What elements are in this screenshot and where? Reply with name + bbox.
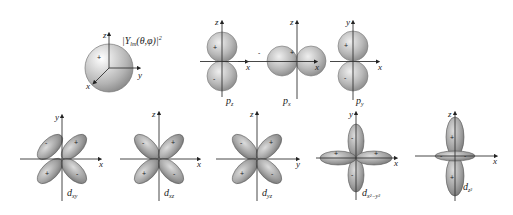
axis-label-y: y xyxy=(137,70,142,80)
orbital-dxz: z x - + + - dxz xyxy=(120,109,201,201)
sign: + xyxy=(142,170,146,177)
orbital-label: py xyxy=(355,95,364,107)
sign-plus: + xyxy=(97,54,101,61)
spherical-harmonic-label: |Ylm(θ,φ)|2 xyxy=(122,35,162,47)
axis-label-z: z xyxy=(102,30,107,40)
axis-label-horizontal: x xyxy=(492,156,497,166)
sign: + xyxy=(269,139,273,146)
sign: + xyxy=(240,170,244,177)
axis-label-vertical: y xyxy=(348,109,353,119)
axis-label-vertical: z xyxy=(289,17,294,27)
orbital-dx2-y2: y x - + + - dx²−y² xyxy=(316,109,398,200)
axis-label-horizontal: y xyxy=(295,159,300,169)
axis-label-x: x xyxy=(85,81,90,91)
sign-left: - xyxy=(258,49,261,56)
sign-right: + xyxy=(290,49,294,56)
lobe-right xyxy=(296,46,326,76)
axis-label-horizontal: x xyxy=(377,62,382,72)
orbital-label: dz² xyxy=(463,181,472,193)
orbital-label: dx²−y² xyxy=(362,187,380,199)
orbital-dz2: z x + - - + dz² xyxy=(415,109,497,201)
axis-label-vertical: z xyxy=(151,109,156,119)
sign: + xyxy=(450,174,454,181)
sign: + xyxy=(74,139,78,146)
sphere-harmonic: z y x + |Ylm(θ,φ)|2 xyxy=(85,30,162,92)
axis-label-vertical: z xyxy=(447,109,452,119)
orbital-label: px xyxy=(282,95,291,107)
axis-label-vertical: z xyxy=(249,109,254,119)
orbital-diagram: z y x + |Ylm(θ,φ)|2 z x + - pz z x - + p… xyxy=(0,0,513,215)
sign: + xyxy=(374,150,378,157)
axis-label-vertical: y xyxy=(54,112,59,122)
orbital-label: dyz xyxy=(262,187,273,199)
sign: + xyxy=(450,134,454,141)
sign-upper: + xyxy=(213,44,217,51)
axis-label-horizontal: x xyxy=(393,158,398,168)
axis-label-vertical: y xyxy=(345,17,350,27)
sign-upper: + xyxy=(344,42,348,49)
orbital-pz: z x + - pz xyxy=(200,17,250,107)
axis-label-vertical: z xyxy=(214,17,219,27)
axis-label-horizontal: x xyxy=(98,159,103,169)
orbital-dyz: z y - + + - dyz xyxy=(216,109,300,201)
orbital-py: y x + - py xyxy=(330,17,382,107)
sign: + xyxy=(171,139,175,146)
sign: + xyxy=(45,170,49,177)
orbital-label: dxy xyxy=(67,187,78,199)
axis-label-horizontal: x xyxy=(245,62,250,72)
orbital-dxy: y x - + + - dxy xyxy=(20,112,103,201)
axis-label-horizontal: x xyxy=(196,159,201,169)
orbital-px: z x - + px xyxy=(238,17,326,107)
orbital-label: pz xyxy=(225,95,234,107)
axis-label-horizontal: x xyxy=(314,62,319,72)
sign: + xyxy=(334,150,338,157)
orbital-label: dxz xyxy=(164,187,175,199)
